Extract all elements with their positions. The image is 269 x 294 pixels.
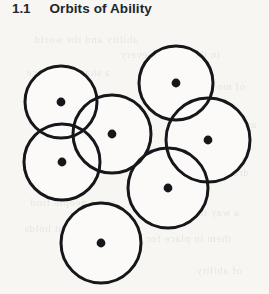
orbit-centre-dot (172, 79, 181, 88)
orbits-diagram-svg (0, 0, 269, 294)
orbits-diagram (0, 0, 269, 294)
page-heading: 1.1 Orbits of Ability (12, 1, 152, 16)
page-title: Orbits of Ability (49, 1, 151, 16)
circle-outline-layer (24, 46, 250, 283)
orbit-centre-dot (97, 239, 106, 248)
orbit-centre-dot (164, 184, 173, 193)
section-number: 1.1 (12, 1, 30, 16)
orbit-centre-dot (58, 158, 67, 167)
orbit-centre-dot (108, 130, 117, 139)
orbit-centre-dot (204, 136, 213, 145)
orbit-centre-dot (57, 98, 66, 107)
scanned-page: ability and the worldin the orbit of eve… (0, 0, 269, 294)
